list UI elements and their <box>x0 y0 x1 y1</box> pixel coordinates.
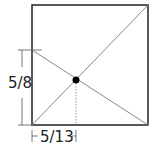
diagonal-line <box>32 5 148 125</box>
intersection-dot <box>73 77 80 84</box>
diagram-canvas: 5/8 5/13 <box>0 0 150 154</box>
slanted-line <box>32 50 148 125</box>
vertical-dimension: 5/8 <box>8 50 42 125</box>
horizontal-dimension-label: 5/13 <box>40 128 74 146</box>
vertical-dimension-label: 5/8 <box>8 74 32 92</box>
horizontal-dimension: 5/13 <box>32 128 76 146</box>
